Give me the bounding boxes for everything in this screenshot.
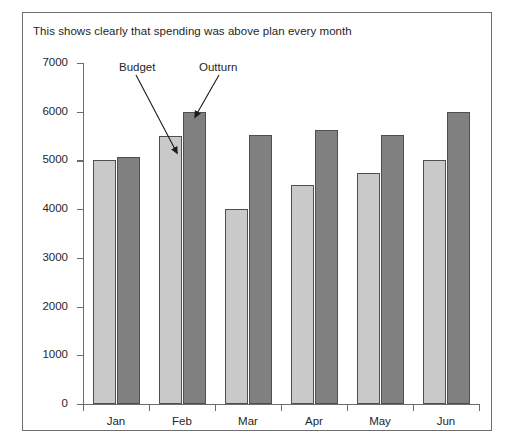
bar-budget-feb xyxy=(159,136,182,404)
x-axis-label-jun: Jun xyxy=(437,415,456,427)
bar-budget-mar xyxy=(225,209,248,404)
y-axis-tick-label: 6000 xyxy=(42,105,68,117)
y-axis-tick: 3000 xyxy=(77,258,83,259)
x-axis-tick xyxy=(281,404,282,411)
bar-outturn-may xyxy=(381,135,404,404)
x-axis-label-jan: Jan xyxy=(107,415,126,427)
x-axis-tick xyxy=(215,404,216,411)
x-axis-tick xyxy=(347,404,348,411)
y-axis-tick-label: 3000 xyxy=(42,251,68,263)
bar-budget-may xyxy=(357,173,380,404)
bar-outturn-jun xyxy=(447,112,470,404)
x-axis-tick xyxy=(83,404,84,411)
y-axis-tick: 4000 xyxy=(77,209,83,210)
x-axis-label-apr: Apr xyxy=(305,415,323,427)
y-axis-tick-label: 7000 xyxy=(42,56,68,68)
y-axis-tick: 2000 xyxy=(77,307,83,308)
bar-outturn-feb xyxy=(183,112,206,404)
y-axis-tick-label: 0 xyxy=(62,397,68,409)
y-axis-line xyxy=(83,63,84,404)
bar-budget-jan xyxy=(93,160,116,404)
x-axis-tick xyxy=(149,404,150,411)
y-axis-tick-label: 4000 xyxy=(42,202,68,214)
y-axis-tick-label: 5000 xyxy=(42,153,68,165)
x-axis-label-may: May xyxy=(369,415,391,427)
annotation-label-outturn: Outturn xyxy=(199,61,237,73)
bar-outturn-jan xyxy=(117,157,140,404)
x-axis-tick xyxy=(413,404,414,411)
figure-caption: This shows clearly that spending was abo… xyxy=(33,25,352,37)
y-axis-tick-label: 1000 xyxy=(42,348,68,360)
x-axis-label-feb: Feb xyxy=(172,415,192,427)
annotation-label-budget: Budget xyxy=(119,61,155,73)
y-axis-tick: 1000 xyxy=(77,355,83,356)
y-axis-tick: 5000 xyxy=(77,160,83,161)
x-axis-tick xyxy=(479,404,480,411)
y-axis-tick: 6000 xyxy=(77,112,83,113)
y-axis-tick-label: 2000 xyxy=(42,300,68,312)
y-axis-tick: 7000 xyxy=(77,63,83,64)
bar-outturn-apr xyxy=(315,130,338,404)
bar-outturn-mar xyxy=(249,135,272,404)
bar-budget-apr xyxy=(291,185,314,404)
figure-frame: This shows clearly that spending was abo… xyxy=(22,12,492,431)
top-edge-bleed-text xyxy=(30,0,330,5)
x-axis-label-mar: Mar xyxy=(238,415,258,427)
bar-chart-plot-area: 01000200030004000500060007000 JanFebMarA… xyxy=(83,63,479,404)
bar-budget-jun xyxy=(423,160,446,404)
